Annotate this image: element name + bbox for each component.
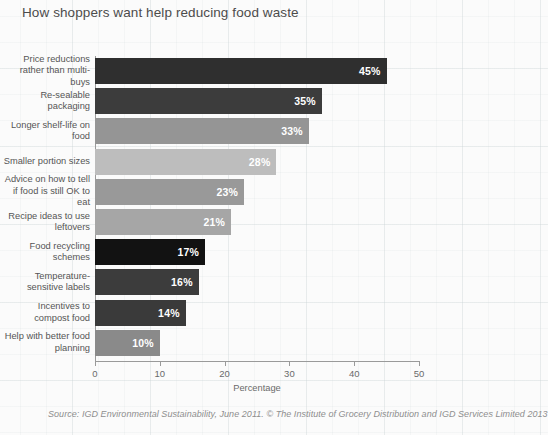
bar-value-label: 10% [132, 337, 154, 349]
category-label: Advice on how to tell if food is still O… [2, 174, 90, 209]
x-axis-tick-label: 20 [219, 368, 230, 379]
x-axis-tick-label: 30 [284, 368, 295, 379]
category-label: Temperature-sensitive labels [2, 271, 90, 294]
bar[interactable]: 33% [95, 118, 309, 144]
bar-value-label: 21% [203, 216, 225, 228]
x-axis-tick-label: 0 [92, 368, 97, 379]
bar-row: 28% [95, 149, 419, 175]
bar-value-label: 45% [359, 65, 381, 77]
bar-value-label: 35% [294, 95, 316, 107]
bar-row: 16% [95, 269, 419, 295]
bar[interactable]: 21% [95, 209, 231, 235]
bar[interactable]: 14% [95, 300, 186, 326]
bar[interactable]: 23% [95, 179, 244, 205]
bar-row: 45% [95, 58, 419, 84]
x-axis-tick-label: 10 [155, 368, 166, 379]
bar-value-label: 33% [281, 125, 303, 137]
bar-row: 23% [95, 179, 419, 205]
category-label: Smaller portion sizes [2, 156, 90, 168]
bar[interactable]: 16% [95, 269, 199, 295]
category-label: Food recycling schemes [2, 241, 90, 264]
x-axis-title: Percentage [233, 383, 281, 393]
x-axis-tick [160, 361, 161, 366]
plot-area: 45%35%33%28%23%21%17%16%14%10% 010203040… [95, 56, 419, 361]
bar-row: 10% [95, 330, 419, 356]
category-label: Help with better food planning [2, 331, 90, 354]
bar[interactable]: 45% [95, 58, 387, 84]
bar-row: 17% [95, 239, 419, 265]
x-axis-tick [289, 361, 290, 366]
category-label: Longer shelf-life on food [2, 120, 90, 143]
x-axis-line [95, 361, 420, 362]
source-note: Source: IGD Environmental Sustainability… [48, 409, 548, 419]
x-axis-tick-label: 40 [349, 368, 360, 379]
bar[interactable]: 10% [95, 330, 160, 356]
bar-value-label: 23% [216, 186, 238, 198]
bar-value-label: 17% [178, 246, 200, 258]
bar[interactable]: 28% [95, 149, 276, 175]
bar-row: 35% [95, 88, 419, 114]
bar-row: 14% [95, 300, 419, 326]
bar-row: 21% [95, 209, 419, 235]
bar-value-label: 16% [171, 276, 193, 288]
x-axis-tick-label: 50 [414, 368, 425, 379]
category-label: Incentives to compost food [2, 301, 90, 324]
x-axis-tick [95, 361, 96, 366]
category-label: Re-sealable packaging [2, 90, 90, 113]
bar-value-label: 28% [249, 156, 271, 168]
category-label: Recipe ideas to use leftovers [2, 211, 90, 234]
x-axis-tick [225, 361, 226, 366]
bar-value-label: 14% [158, 307, 180, 319]
bar-row: 33% [95, 118, 419, 144]
bar[interactable]: 17% [95, 239, 205, 265]
chart-title: How shoppers want help reducing food was… [22, 5, 299, 20]
category-axis-labels: Price reductions rather than multi-buysR… [0, 56, 90, 361]
x-axis-tick [419, 361, 420, 366]
category-label: Price reductions rather than multi-buys [2, 54, 90, 89]
x-axis-tick [354, 361, 355, 366]
bar[interactable]: 35% [95, 88, 322, 114]
